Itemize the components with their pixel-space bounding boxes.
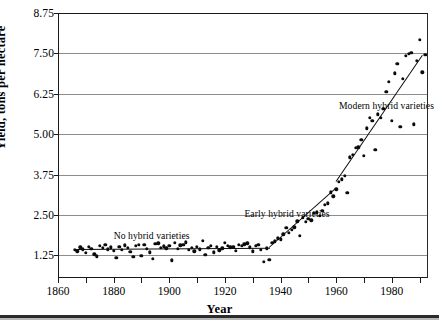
x-axis-tick-label: 1880: [102, 285, 125, 297]
y-axis-tick-label: 2.50: [33, 209, 54, 221]
x-axis-tick-mark: [420, 278, 421, 283]
x-axis-tick-label: 1960: [325, 285, 348, 297]
plot-frame: [58, 13, 428, 278]
x-axis-tick-mark: [281, 278, 282, 283]
x-axis-tick-labels: 1860188019001920194019601980: [58, 285, 428, 301]
x-axis-tick-mark: [336, 278, 337, 283]
x-axis-tick-label: 1900: [158, 285, 181, 297]
x-axis-tick-mark: [169, 278, 170, 283]
x-axis-tick-mark: [114, 278, 115, 283]
x-axis-ticks: [58, 278, 428, 284]
x-axis-tick-mark: [225, 278, 226, 283]
x-axis-tick-mark: [308, 278, 309, 283]
y-axis-tick-labels: 1.252.503.755.006.257.508.75: [0, 13, 54, 278]
y-axis-tick-label: 6.25: [33, 88, 54, 100]
x-axis-tick-mark: [197, 278, 198, 283]
x-axis-tick-mark: [364, 278, 365, 283]
y-axis-tick-label: 1.25: [33, 249, 54, 261]
x-axis-tick-mark: [58, 278, 59, 283]
y-axis-tick-label: 5.00: [33, 128, 54, 140]
x-axis-tick-mark: [253, 278, 254, 283]
x-axis-tick-mark: [86, 278, 87, 283]
plot-area: No hybrid varietiesEarly hybrid varietie…: [58, 13, 428, 278]
y-axis-tick-label: 7.50: [33, 47, 54, 59]
x-axis-tick-mark: [392, 278, 393, 283]
x-axis-tick-label: 1860: [47, 285, 70, 297]
page-edge-rule-soft: [0, 318, 439, 320]
x-axis-tick-label: 1920: [213, 285, 236, 297]
chart-figure: Yield, tons per hectare 1.252.503.755.00…: [0, 0, 439, 325]
x-axis-tick-label: 1940: [269, 285, 292, 297]
x-axis-tick-mark: [141, 278, 142, 283]
x-axis-tick-label: 1980: [380, 285, 403, 297]
y-axis-tick-label: 8.75: [33, 7, 54, 19]
y-axis-tick-label: 3.75: [33, 169, 54, 181]
